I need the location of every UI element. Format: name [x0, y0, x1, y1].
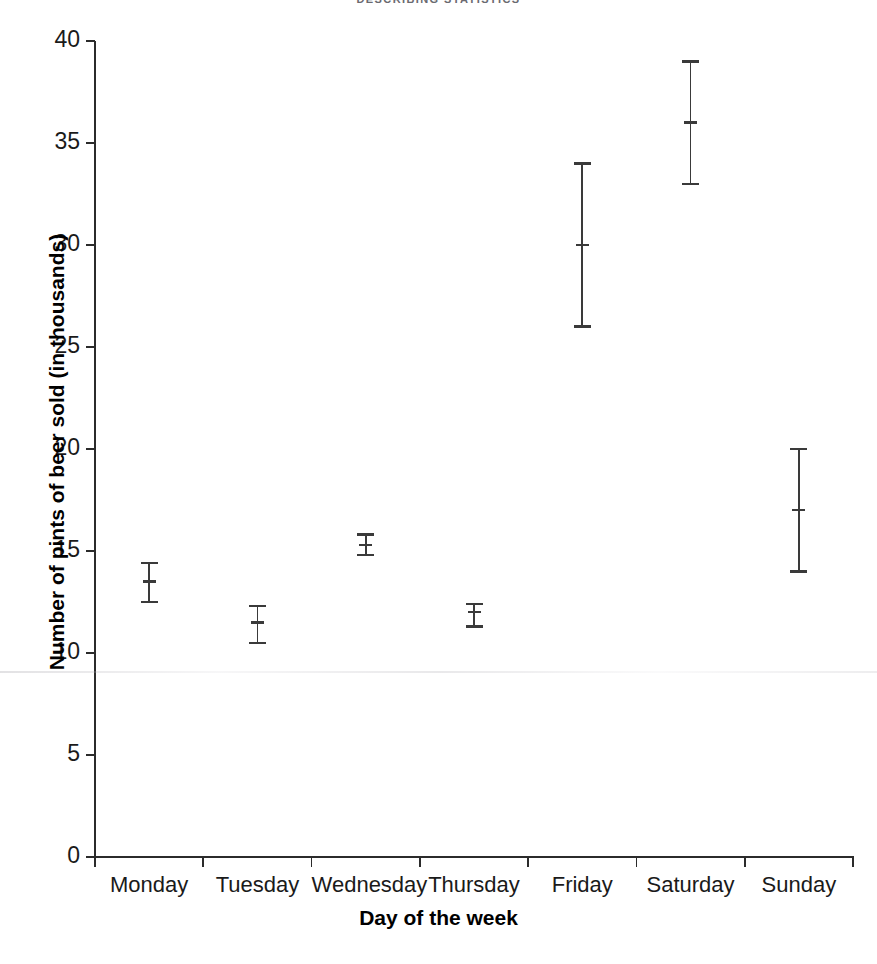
y-tick-mark	[86, 142, 95, 144]
errorbar-lower-cap	[466, 625, 483, 627]
x-tick-label-saturday: Saturday	[636, 872, 744, 898]
errorbar-mean-marker	[792, 509, 805, 512]
y-tick-mark	[86, 652, 95, 654]
x-tick-label-wednesday: Wednesday	[312, 872, 420, 898]
plot-area	[95, 41, 853, 857]
scan-artifact-line	[0, 671, 877, 673]
errorbar-upper-cap	[574, 162, 591, 164]
x-tick-label-tuesday: Tuesday	[203, 872, 311, 898]
y-tick-label: 40	[36, 28, 80, 51]
x-tick-mark	[852, 857, 854, 867]
x-tick-label-monday: Monday	[95, 872, 203, 898]
x-tick-mark	[94, 857, 96, 867]
y-tick-mark	[86, 244, 95, 246]
errorbar-mean-marker	[143, 580, 156, 583]
x-tick-mark	[636, 857, 638, 867]
x-tick-label-sunday: Sunday	[745, 872, 853, 898]
errorbar-upper-cap	[682, 60, 699, 62]
errorbar-stem	[473, 604, 475, 626]
chart-figure: DESCRIBING STATISTICS 0510152025303540 M…	[0, 0, 877, 964]
errorbar-lower-cap	[790, 570, 807, 572]
y-tick-mark	[86, 346, 95, 348]
y-tick-mark	[86, 40, 95, 42]
y-tick-mark	[86, 550, 95, 552]
errorbar-mean-marker	[684, 121, 697, 124]
errorbar-mean-marker	[576, 244, 589, 247]
x-tick-label-friday: Friday	[528, 872, 636, 898]
errorbar-mean-marker	[359, 544, 372, 547]
errorbar-lower-cap	[574, 325, 591, 327]
y-tick-mark	[86, 754, 95, 756]
x-tick-mark	[527, 857, 529, 867]
y-tick-label: 0	[36, 844, 80, 867]
errorbar-upper-cap	[249, 605, 266, 607]
y-axis-title: Number of pints of beer sold (in thousan…	[45, 142, 69, 762]
x-tick-mark	[202, 857, 204, 867]
errorbar-upper-cap	[141, 562, 158, 564]
errorbar-lower-cap	[682, 183, 699, 185]
chart-title: DESCRIBING STATISTICS	[0, 0, 877, 5]
x-tick-mark	[419, 857, 421, 867]
x-tick-mark	[311, 857, 313, 867]
errorbar-upper-cap	[357, 533, 374, 535]
errorbar-mean-marker	[468, 611, 481, 614]
errorbar-upper-cap	[790, 448, 807, 450]
y-tick-mark	[86, 448, 95, 450]
x-tick-mark	[744, 857, 746, 867]
errorbar-lower-cap	[141, 601, 158, 603]
errorbar-lower-cap	[357, 554, 374, 556]
errorbar-mean-marker	[251, 621, 264, 624]
errorbar-upper-cap	[466, 603, 483, 605]
errorbar-lower-cap	[249, 642, 266, 644]
x-tick-label-thursday: Thursday	[420, 872, 528, 898]
x-axis-title: Day of the week	[0, 906, 877, 930]
errorbar-stem	[257, 606, 259, 643]
